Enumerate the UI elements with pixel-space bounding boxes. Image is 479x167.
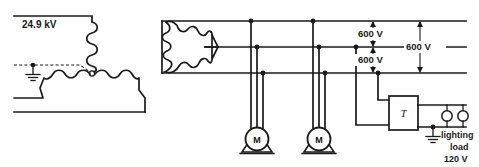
dimension-overall-label: 600 V (406, 41, 431, 52)
dimension-lower-label: 600 V (358, 54, 383, 65)
motor-2-label: M (315, 135, 323, 145)
dimension-upper-arrow-bottom (370, 41, 376, 47)
transformer-lead-2 (378, 73, 389, 100)
lighting-ground-icon (426, 127, 440, 143)
ground-icon (26, 63, 40, 81)
dimension-overall-arrow-top (417, 21, 423, 27)
dimension-lower: 600 V (355, 47, 395, 73)
delta-coil-left (162, 22, 171, 72)
lighting-load-label-line2: load (450, 142, 469, 152)
delta-coil-top (166, 21, 212, 35)
transformer-tap-b (354, 45, 359, 50)
motor-2-tap-c (323, 71, 328, 76)
lighting-circuit: lighting load 120 V (418, 105, 474, 164)
motor-1: M (240, 128, 274, 154)
lamp-icon-1 (442, 105, 452, 127)
motor-2-feeder (311, 19, 328, 128)
delta-coil-bottom (166, 59, 212, 73)
motor-2-tap-a (311, 19, 316, 24)
motor-2-tap-b (317, 45, 322, 50)
dimension-upper-label: 600 V (358, 28, 383, 39)
motor-1-feeder (249, 19, 266, 128)
motor-1-label: M (253, 135, 261, 145)
motor-1-tap-c (261, 71, 266, 76)
primary-phase-coil-a (87, 22, 98, 72)
lamp-2-body (458, 111, 468, 121)
dimension-lower-arrow-top (370, 47, 376, 53)
secondary-system-group: M M (162, 19, 474, 164)
dimension-upper-arrow-top (370, 21, 376, 27)
lamp-1-body (442, 111, 452, 121)
lighting-load-label-line3: 120 V (444, 154, 468, 164)
lamp-icon-2 (458, 105, 468, 127)
primary-phase-coil-c (95, 70, 145, 112)
motor-1-tap-b (255, 45, 260, 50)
dimension-overall-arrow-bottom (417, 67, 423, 73)
lighting-load-label-line1: lighting (441, 130, 474, 140)
primary-voltage-label: 24.9 kV (22, 19, 57, 30)
motor-2: M (302, 128, 336, 154)
primary-source-group: 24.9 kV (14, 16, 145, 112)
transformer-tap-c (376, 71, 381, 76)
motor-1-tap-a (249, 19, 254, 24)
dimension-lower-arrow-bottom (370, 67, 376, 73)
electrical-diagram: 24.9 kV (0, 0, 479, 167)
dimension-upper: 600 V (355, 21, 395, 47)
transformer-box-icon: T (389, 96, 418, 130)
diagram-canvas: 24.9 kV (0, 0, 479, 167)
dimension-overall: 600 V (404, 21, 446, 73)
